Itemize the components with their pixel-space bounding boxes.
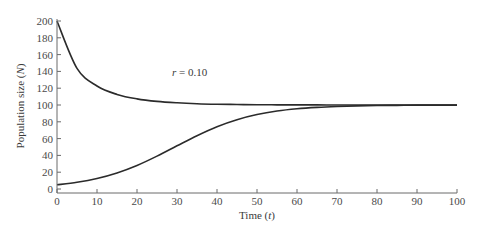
y-tick-label: 140 (37, 65, 54, 77)
x-tick-label: 50 (252, 195, 264, 207)
x-axis-label: Time (t) (239, 209, 275, 222)
growth-rate-annotation: r = 0.10 (172, 66, 208, 78)
y-tick-label: 80 (42, 116, 54, 128)
y-tick-label: 200 (37, 15, 54, 27)
y-tick-label: 0 (48, 183, 54, 195)
y-tick-label: 100 (37, 99, 54, 111)
y-tick-label: 20 (42, 166, 54, 178)
x-tick-label: 80 (372, 195, 384, 207)
y-tick-label: 180 (37, 32, 54, 44)
x-tick-label: 0 (54, 195, 60, 207)
x-tick-label: 10 (92, 195, 104, 207)
y-tick-label: 120 (37, 82, 54, 94)
logistic-growth-chart: 020406080100120140160180200 010203040506… (0, 0, 481, 232)
y-axis-label: Population size (N) (14, 63, 27, 148)
x-tick-label: 90 (412, 195, 424, 207)
x-tick-label: 30 (172, 195, 184, 207)
x-tick-label: 70 (332, 195, 344, 207)
decline-curve (57, 21, 457, 105)
x-tick-label: 40 (212, 195, 224, 207)
x-tick-label: 60 (292, 195, 304, 207)
x-tick-label: 100 (449, 195, 466, 207)
x-ticks: 0102030405060708090100 (54, 189, 466, 207)
y-tick-label: 160 (37, 49, 54, 61)
growth-curve (57, 105, 457, 185)
x-tick-label: 20 (132, 195, 144, 207)
y-tick-label: 40 (42, 149, 54, 161)
y-tick-label: 60 (42, 133, 54, 145)
plot-lines (57, 21, 457, 185)
